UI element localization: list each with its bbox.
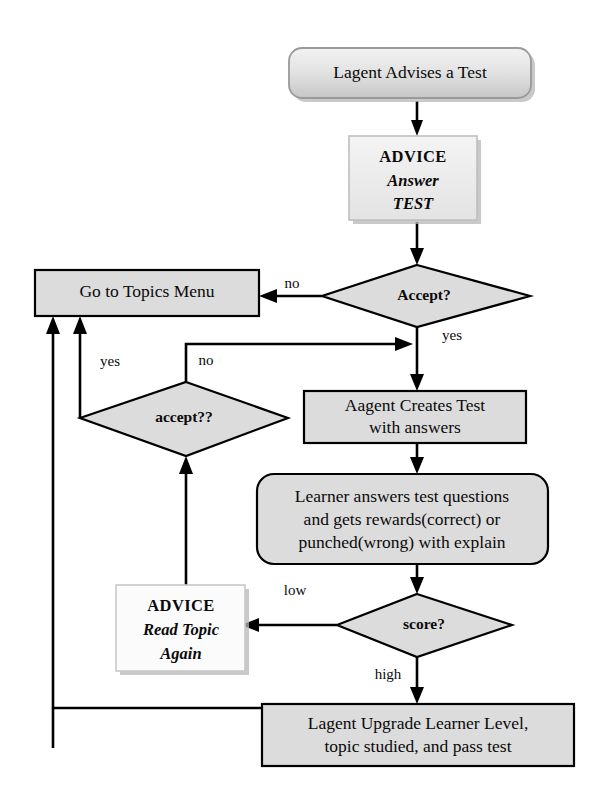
edge-accept2-yes-to-topics	[73, 316, 87, 418]
node-start[interactable]: Lagent Advises a Test	[289, 48, 535, 102]
node-learner-answers-line3: punched(wrong) with explain	[298, 532, 505, 552]
node-learner-answers[interactable]: Learner answers test questions and gets …	[257, 474, 548, 564]
edge-label-accept-no: no	[285, 275, 300, 291]
node-accept-decision[interactable]: Accept?	[322, 265, 530, 327]
flowchart-canvas: Lagent Advises a Test ADVICE Answer TEST…	[0, 0, 598, 802]
node-go-to-topics-menu[interactable]: Go to Topics Menu	[35, 270, 259, 316]
node-accept2-decision[interactable]: accept??	[80, 382, 288, 456]
node-advice-answer-test-line1: ADVICE	[379, 147, 447, 166]
edge-label-accept-yes: yes	[442, 327, 462, 343]
edge-label-accept2-no: no	[199, 352, 214, 368]
node-advice-read-topic[interactable]: ADVICE Read Topic Again	[116, 585, 249, 675]
node-advice-read-topic-line1: ADVICE	[147, 596, 215, 615]
node-aagent-creates-test-line1: Aagent Creates Test	[345, 395, 485, 415]
node-accept2-decision-label: accept??	[155, 408, 213, 425]
node-lagent-upgrade-line1: Lagent Upgrade Learner Level,	[308, 713, 529, 733]
node-start-label: Lagent Advises a Test	[333, 62, 487, 82]
node-go-to-topics-menu-label: Go to Topics Menu	[79, 281, 214, 301]
edge-label-score-low: low	[284, 582, 307, 598]
edge-upgrade-to-topics	[46, 316, 262, 748]
node-accept-decision-label: Accept?	[397, 286, 450, 303]
node-lagent-upgrade[interactable]: Lagent Upgrade Learner Level, topic stud…	[262, 704, 574, 766]
flowchart-diagram: Lagent Advises a Test ADVICE Answer TEST…	[0, 0, 598, 802]
node-advice-answer-test[interactable]: ADVICE Answer TEST	[349, 136, 481, 224]
edge-start-to-advice	[411, 101, 423, 136]
node-lagent-upgrade-line2: topic studied, and pass test	[324, 736, 511, 756]
edge-accept-yes-to-aagent	[410, 327, 424, 391]
edge-score-low-to-advice	[241, 618, 337, 632]
node-learner-answers-line1: Learner answers test questions	[295, 486, 509, 506]
edge-label-score-high: high	[375, 666, 402, 682]
node-advice-read-topic-line3: Again	[159, 644, 201, 663]
edge-aagent-to-learner	[410, 443, 424, 474]
node-score-decision[interactable]: score?	[337, 594, 512, 657]
node-aagent-creates-test-line2: with answers	[369, 417, 461, 437]
edge-score-high-to-upgrade	[410, 657, 424, 704]
node-score-decision-label: score?	[403, 615, 445, 632]
node-learner-answers-line2: and gets rewards(correct) or	[304, 509, 501, 529]
edge-label-accept2-yes: yes	[100, 353, 120, 369]
edge-advice-to-accept	[410, 222, 424, 265]
edge-learner-to-score	[410, 564, 424, 594]
edge-advice-read-to-accept2	[179, 456, 193, 585]
node-advice-answer-test-line2: Answer	[386, 171, 439, 190]
node-advice-read-topic-line2: Read Topic	[142, 620, 220, 639]
node-aagent-creates-test[interactable]: Aagent Creates Test with answers	[304, 391, 526, 443]
node-advice-answer-test-line3: TEST	[393, 194, 434, 213]
